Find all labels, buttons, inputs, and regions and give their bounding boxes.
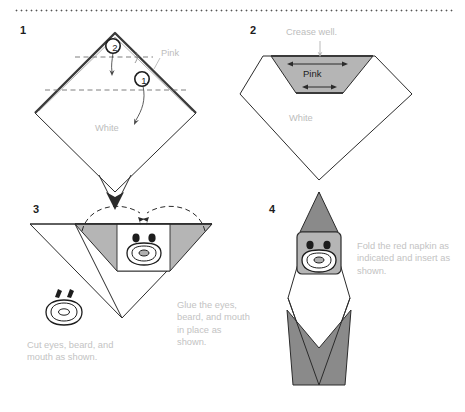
gnome-eye-right <box>323 241 330 249</box>
step-4-caption: Fold the red napkin as indicated and ins… <box>357 240 457 277</box>
step-4-gnome <box>287 192 351 385</box>
gnome-mouth <box>314 257 324 263</box>
instruction-sheet: 1 2 1 Pink White 2 <box>0 0 465 412</box>
gnome-hat <box>300 192 338 232</box>
gnome-eye-left <box>306 241 313 249</box>
step-4-illustration <box>0 0 465 412</box>
